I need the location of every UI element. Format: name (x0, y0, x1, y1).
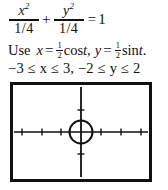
viewing-window-range: −3 ≤ x ≤ 3, −2 ≤ y ≤ 2 (8, 60, 140, 77)
term2-numerator-exponent: 2 (70, 1, 75, 11)
sine-function: sin (122, 42, 139, 59)
term1-numerator: x2 (14, 4, 33, 19)
ellipse-equation: x2 1/4 + y2 1/4 =1 (8, 4, 106, 36)
coefficient-one-half-x: 1 2 (56, 41, 62, 59)
graph-viewport (10, 82, 152, 182)
term1-denominator: 1/4 (10, 21, 37, 36)
equation-equals-sign: = (88, 11, 97, 27)
equation-plus-operator: + (42, 11, 51, 28)
parametric-substitution: Use x = 1 2 cos t , y = 1 2 sin t . (8, 41, 146, 59)
use-label: Use (8, 42, 31, 59)
equation-term-1: x2 1/4 (9, 4, 39, 36)
cosine-function: cos (64, 42, 83, 59)
parametric-y-equals: = (103, 42, 111, 59)
equation-right-side: =1 (88, 11, 106, 28)
parametric-y-variable: y (95, 42, 101, 59)
coefficient-numerator-y: 1 (115, 41, 121, 50)
parametric-x-equals: = (45, 42, 53, 59)
term2-numerator: y2 (59, 4, 78, 19)
equation-term-2: y2 1/4 (54, 4, 84, 36)
parametric-separator: , (87, 42, 91, 59)
parametric-period: . (143, 42, 147, 59)
equation-result: 1 (98, 11, 106, 27)
coefficient-denominator-x: 2 (56, 51, 62, 60)
coefficient-denominator-y: 2 (115, 51, 121, 60)
coordinate-plane (13, 85, 149, 179)
textbook-figure: x2 1/4 + y2 1/4 =1 Use x = 1 2 cos t , y… (0, 0, 168, 190)
term1-numerator-exponent: 2 (25, 1, 30, 11)
coefficient-one-half-y: 1 2 (115, 41, 121, 59)
parametric-x-variable: x (37, 42, 43, 59)
coefficient-numerator-x: 1 (56, 41, 62, 50)
term2-denominator: 1/4 (55, 21, 82, 36)
